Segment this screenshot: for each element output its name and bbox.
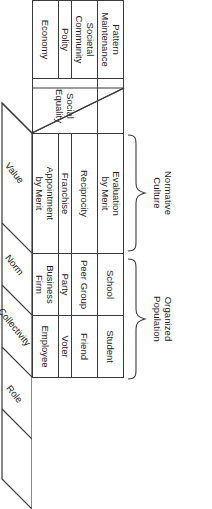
cell-pattern-maintenance-norm	[98, 79, 124, 134]
row-header-polity: Polity	[58, 1, 71, 79]
curly-brace-icon	[127, 133, 147, 253]
row-header-economy: Economy	[33, 1, 59, 79]
row-header-pattern-maintenance: Pattern Maintenance	[98, 1, 124, 79]
cell-economy-role: Employee	[33, 316, 59, 378]
cell-polity-collectivity: Party	[58, 254, 71, 316]
cell-polity-role: Voter	[58, 316, 71, 378]
axis-label-band: Value Norm Collectivity Role	[0, 0, 32, 509]
cell-pattern-maintenance-role: Student	[98, 316, 124, 378]
brace-group-normative-culture: Normative Culture	[124, 133, 212, 253]
cell-societal-community-collectivity: Peer Group	[72, 254, 98, 316]
brace-group-organized-population: Organized Population	[124, 257, 212, 381]
row-header-societal-community: Societal Community	[72, 1, 98, 79]
cell-societal-community-value: Reciprocity	[72, 134, 98, 254]
curly-brace-icon	[127, 257, 147, 381]
cell-economy-value: Appointment by Merit	[33, 134, 59, 254]
table-row: Societal Community Social Equality Recip…	[72, 1, 98, 509]
axis-label-svg: Value Norm Collectivity Role	[0, 0, 32, 509]
brace-label-normative-culture: Normative Culture	[152, 133, 174, 253]
brace-label-organized-population: Organized Population	[152, 257, 174, 381]
cell-social-equality-merged: Social Equality	[33, 79, 98, 134]
table-row: Economy Appointment by Merit Business Fi…	[33, 1, 59, 509]
diagram-canvas: Normative Culture Organized Population	[0, 0, 212, 509]
brace-band: Normative Culture Organized Population	[124, 0, 212, 509]
cell-polity-value: Franchise	[58, 134, 71, 254]
table-row: Pattern Maintenance Evaluation by Merit …	[98, 1, 124, 509]
cell-societal-community-role: Friend	[72, 316, 98, 378]
table-row: Polity Franchise Party Voter	[58, 1, 71, 509]
cell-pattern-maintenance-collectivity: School	[98, 254, 124, 316]
cell-economy-collectivity: Business Firm	[33, 254, 59, 316]
matrix-wrapper: Pattern Maintenance Evaluation by Merit …	[32, 0, 124, 509]
societal-subsystems-table: Pattern Maintenance Evaluation by Merit …	[32, 0, 124, 509]
cell-pattern-maintenance-value: Evaluation by Merit	[98, 134, 124, 254]
figure-rotator: Normative Culture Organized Population	[0, 0, 212, 509]
